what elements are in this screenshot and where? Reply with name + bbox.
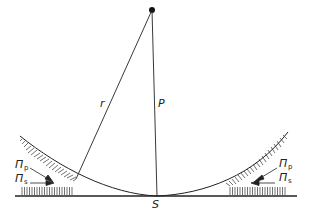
right-arrows [251, 168, 277, 186]
label-S: S [152, 198, 159, 211]
label-P: P [158, 97, 165, 110]
label-pi-right-p: Π [279, 157, 287, 170]
curve [20, 132, 288, 196]
label-pi-left-p: Π [15, 158, 23, 171]
diagram-canvas: r P S Π p Π s Π p Π s [0, 0, 310, 222]
right-curve-hatching [226, 135, 287, 186]
label-pi-right-s-sub: s [288, 177, 292, 185]
left-base-hatching [22, 187, 72, 195]
left-arrows [30, 168, 54, 186]
label-pi-left-s: Π [15, 172, 23, 185]
label-pi-left-s-sub: s [24, 178, 28, 186]
right-base-hatching [230, 187, 285, 195]
label-r: r [100, 97, 106, 110]
label-pi-right-s: Π [279, 171, 287, 184]
label-pi-left-p-sub: p [24, 164, 29, 172]
p-line [152, 10, 157, 196]
r-line [76, 10, 152, 179]
label-pi-right-p-sub: p [288, 163, 293, 171]
